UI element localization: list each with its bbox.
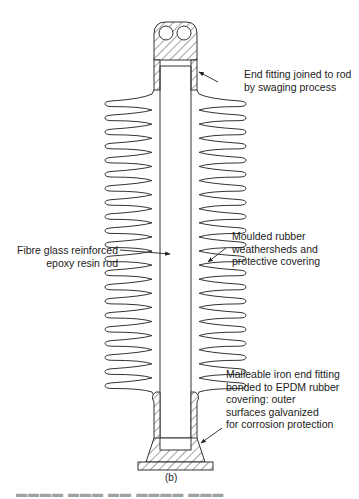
fibreglass-rod — [160, 66, 191, 466]
label-rod: Fibre glass reinforced epoxy resin rod — [10, 244, 118, 269]
top-sleeve-left — [154, 60, 160, 90]
weathersheds-left — [105, 90, 154, 396]
label-end-fitting-top: End fitting joined to rod by swaging pro… — [244, 68, 351, 93]
leader-lines — [120, 72, 226, 443]
subfigure-label: (b) — [165, 472, 177, 483]
mounting-hole-left — [159, 26, 173, 40]
leader-rod — [120, 250, 170, 254]
leader-end-fitting-top — [199, 72, 218, 82]
clipped-caption-text: ▬▬▬▬ ▬▬▬ ▬▬ ▬▬▬▬ ▬▬▬ — [16, 487, 224, 499]
label-end-fitting-bottom: Malleable iron end fitting bonded to EPD… — [226, 368, 340, 431]
leader-end-fitting-bottom — [201, 428, 222, 443]
bottom-end-fitting — [138, 392, 213, 470]
top-sleeve-right — [191, 60, 197, 90]
label-weathersheds: Moulded rubber weathersheds and protecti… — [232, 230, 320, 268]
base-plate — [138, 462, 213, 470]
mounting-hole-right — [177, 26, 191, 40]
weathersheds — [105, 90, 246, 396]
